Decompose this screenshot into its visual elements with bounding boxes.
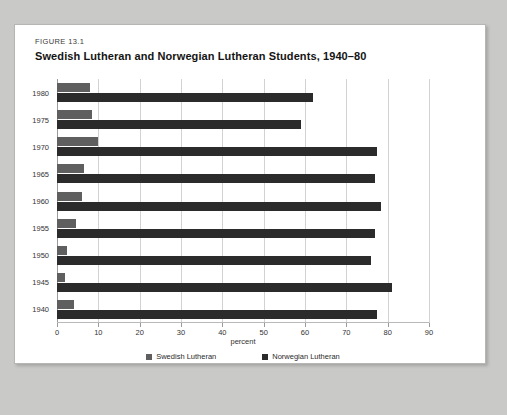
y-tick-label-1975: 1975 bbox=[15, 115, 49, 124]
chart-plot-area: 194019451950195519601965197019751980 010… bbox=[57, 79, 429, 323]
x-tick-mark-90 bbox=[429, 323, 430, 327]
y-tick-label-1950: 1950 bbox=[15, 251, 49, 260]
gridline-90 bbox=[429, 79, 430, 323]
y-tick-label-1980: 1980 bbox=[15, 88, 49, 97]
bar-swedish-1950 bbox=[57, 246, 67, 255]
bar-swedish-1980 bbox=[57, 83, 90, 92]
figure-number-label: FIGURE 13.1 bbox=[35, 37, 84, 46]
x-tick-label-10: 10 bbox=[94, 328, 102, 337]
x-axis-title: percent bbox=[57, 337, 429, 346]
bar-swedish-1940 bbox=[57, 300, 74, 309]
x-tick-mark-60 bbox=[305, 323, 306, 327]
x-tick-label-90: 90 bbox=[425, 328, 433, 337]
legend-swatch-icon bbox=[262, 354, 268, 360]
x-tick-mark-30 bbox=[181, 323, 182, 327]
legend-swatch-icon bbox=[146, 354, 152, 360]
x-tick-mark-0 bbox=[57, 323, 58, 327]
y-tick-label-1955: 1955 bbox=[15, 224, 49, 233]
legend-entry-swedish-lutheran: Swedish Lutheran bbox=[146, 352, 216, 361]
figure-panel: FIGURE 13.1 Swedish Lutheran and Norwegi… bbox=[14, 24, 486, 364]
bar-norwegian-1960 bbox=[57, 202, 381, 211]
x-axis-line bbox=[57, 322, 429, 323]
x-tick-label-70: 70 bbox=[342, 328, 350, 337]
bar-swedish-1965 bbox=[57, 164, 84, 173]
x-tick-mark-50 bbox=[264, 323, 265, 327]
bar-swedish-1955 bbox=[57, 219, 76, 228]
x-tick-mark-10 bbox=[98, 323, 99, 327]
legend-label: Norwegian Lutheran bbox=[272, 352, 340, 361]
bar-norwegian-1950 bbox=[57, 256, 371, 265]
y-tick-label-1945: 1945 bbox=[15, 278, 49, 287]
bar-swedish-1960 bbox=[57, 192, 82, 201]
x-tick-label-30: 30 bbox=[177, 328, 185, 337]
bar-swedish-1970 bbox=[57, 137, 98, 146]
x-tick-mark-20 bbox=[140, 323, 141, 327]
x-tick-mark-80 bbox=[388, 323, 389, 327]
x-tick-label-50: 50 bbox=[259, 328, 267, 337]
bar-norwegian-1965 bbox=[57, 174, 375, 183]
bar-norwegian-1955 bbox=[57, 229, 375, 238]
x-tick-mark-40 bbox=[222, 323, 223, 327]
legend-label: Swedish Lutheran bbox=[156, 352, 216, 361]
bar-norwegian-1980 bbox=[57, 93, 313, 102]
bar-norwegian-1945 bbox=[57, 283, 392, 292]
legend-entry-norwegian-lutheran: Norwegian Lutheran bbox=[262, 352, 340, 361]
bar-norwegian-1940 bbox=[57, 310, 377, 319]
x-tick-label-20: 20 bbox=[135, 328, 143, 337]
x-tick-mark-70 bbox=[346, 323, 347, 327]
y-tick-label-1940: 1940 bbox=[15, 305, 49, 314]
y-tick-label-1970: 1970 bbox=[15, 142, 49, 151]
x-tick-label-60: 60 bbox=[301, 328, 309, 337]
bar-swedish-1945 bbox=[57, 273, 65, 282]
x-tick-label-80: 80 bbox=[383, 328, 391, 337]
bar-norwegian-1970 bbox=[57, 147, 377, 156]
x-tick-label-40: 40 bbox=[218, 328, 226, 337]
y-tick-label-1965: 1965 bbox=[15, 169, 49, 178]
bar-swedish-1975 bbox=[57, 110, 92, 119]
x-tick-label-0: 0 bbox=[55, 328, 59, 337]
y-tick-label-1960: 1960 bbox=[15, 197, 49, 206]
figure-title: Swedish Lutheran and Norwegian Lutheran … bbox=[35, 50, 367, 62]
chart-legend: Swedish LutheranNorwegian Lutheran bbox=[57, 352, 429, 361]
bar-norwegian-1975 bbox=[57, 120, 301, 129]
